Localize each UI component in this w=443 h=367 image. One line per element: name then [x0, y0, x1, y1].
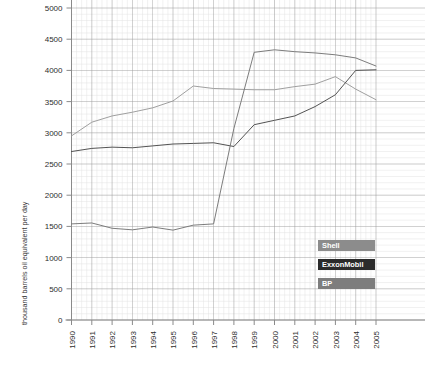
y-tick-label: 4500 — [45, 35, 63, 44]
y-axis-title: thousand barrels oil equivalent per day — [20, 201, 29, 325]
x-tick-label: 1993 — [129, 330, 138, 348]
x-tick-label: 1997 — [210, 330, 219, 348]
x-tick-label: 1991 — [88, 330, 97, 348]
y-tick-label: 1500 — [45, 222, 63, 231]
y-tick-label: 5000 — [45, 4, 63, 13]
x-tick-label: 1990 — [68, 330, 77, 348]
chart-legend: ShellExxonMobilBP — [318, 240, 375, 289]
x-tick-label: 2000 — [271, 330, 280, 348]
x-tick-label: 1996 — [190, 330, 199, 348]
x-tick-label: 1999 — [250, 330, 259, 348]
y-tick-label: 2500 — [45, 160, 63, 169]
legend-label: Shell — [322, 241, 340, 250]
y-tick-label: 0 — [58, 316, 63, 325]
x-tick-label: 1998 — [230, 330, 239, 348]
chart-background — [0, 0, 443, 367]
line-chart: 0500100015002000250030003500400045005000… — [0, 0, 443, 367]
y-tick-label: 3000 — [45, 129, 63, 138]
y-tick-label: 4000 — [45, 66, 63, 75]
x-tick-label: 1992 — [108, 330, 117, 348]
y-tick-label: 2000 — [45, 191, 63, 200]
chart-container: 0500100015002000250030003500400045005000… — [0, 0, 443, 367]
y-tick-label: 3500 — [45, 98, 63, 107]
y-tick-label: 1000 — [45, 254, 63, 263]
legend-item-shell[interactable]: Shell — [318, 240, 375, 251]
x-tick-label: 2003 — [332, 330, 341, 348]
legend-label: ExxonMobil — [322, 260, 363, 269]
legend-item-bp[interactable]: BP — [318, 278, 375, 289]
x-tick-label: 2002 — [311, 330, 320, 348]
x-tick-label: 2001 — [291, 330, 300, 348]
legend-label: BP — [322, 279, 332, 288]
x-tick-label: 1995 — [169, 330, 178, 348]
x-tick-label: 2004 — [352, 330, 361, 348]
legend-item-exxonmobil[interactable]: ExxonMobil — [318, 259, 375, 270]
x-tick-label: 1994 — [149, 330, 158, 348]
y-tick-label: 500 — [49, 285, 63, 294]
x-tick-label: 2005 — [372, 330, 381, 348]
